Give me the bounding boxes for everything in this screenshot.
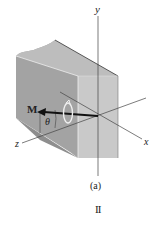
figure-caption: (a) [90,181,101,191]
beam-diagram [0,0,156,229]
moment-label: M [27,104,37,115]
page-marker: II [95,204,100,215]
x-axis-label: x [144,137,148,147]
angle-label: θ [45,117,50,127]
z-axis-label: z [15,139,19,149]
y-axis-label: y [95,4,100,15]
